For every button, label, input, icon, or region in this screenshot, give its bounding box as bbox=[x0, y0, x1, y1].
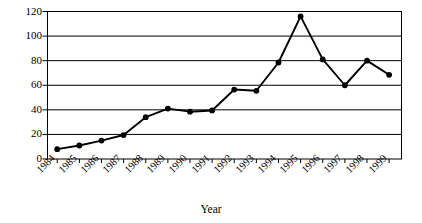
x-axis-tick-label: 1995 bbox=[278, 153, 300, 175]
x-axis-tick-label: 1989 bbox=[145, 153, 167, 175]
x-axis-tick-label: 1992 bbox=[212, 153, 234, 175]
x-axis-tick-label: 1999 bbox=[367, 153, 389, 175]
x-axis-tick-label: 1990 bbox=[167, 153, 189, 175]
x-axis-tick-label: 1984 bbox=[35, 153, 57, 175]
x-axis-tick-label: 1991 bbox=[190, 153, 212, 175]
x-axis-title: Year bbox=[0, 203, 422, 215]
x-axis-tick-label: 1997 bbox=[322, 153, 344, 175]
x-axis-tick-label: 1985 bbox=[57, 153, 79, 175]
x-axis-tick-label: 1986 bbox=[79, 153, 101, 175]
x-axis-tick-label: 1993 bbox=[234, 153, 256, 175]
x-axis-tick-labels: 1984198519861987198819891990199119921993… bbox=[0, 0, 422, 223]
x-axis-tick-label: 1994 bbox=[256, 153, 278, 175]
line-chart: 020406080100120 198419851986198719881989… bbox=[0, 0, 422, 223]
x-axis-tick-label: 1988 bbox=[123, 153, 145, 175]
x-axis-tick-label: 1996 bbox=[300, 153, 322, 175]
x-axis-tick-label: 1998 bbox=[344, 153, 366, 175]
x-axis-tick-label: 1987 bbox=[101, 153, 123, 175]
